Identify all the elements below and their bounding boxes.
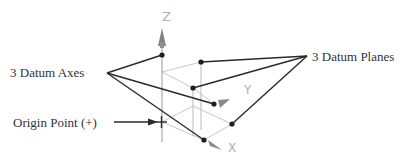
origin-arrow xyxy=(114,119,158,126)
origin-point-icon xyxy=(156,116,167,128)
datum-planes-label: 3 Datum Planes xyxy=(312,50,394,63)
x-axis-label: X xyxy=(228,142,236,154)
origin-point-label: Origin Point (+) xyxy=(13,116,97,129)
x-axis-cone-icon xyxy=(208,140,222,150)
datum-axes-leaders xyxy=(107,55,214,140)
datum-axes-label: 3 Datum Axes xyxy=(10,66,84,79)
y-axis-cone-icon xyxy=(218,99,230,108)
datum-diagram xyxy=(0,0,403,162)
z-axis-label: Z xyxy=(162,10,171,23)
y-axis-label: Y xyxy=(244,84,251,96)
